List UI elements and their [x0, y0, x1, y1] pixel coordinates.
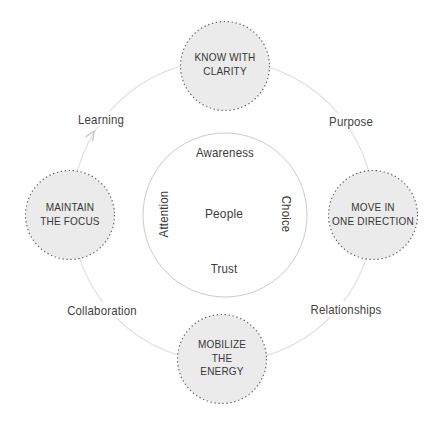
node-label-line: ONE DIRECTION	[332, 214, 414, 228]
node-label-line: THE FOCUS	[40, 214, 99, 228]
node-label-mobilize-the-energy: MOBILIZE THE ENERGY	[198, 338, 246, 379]
node-label-maintain-the-focus: MAINTAIN THE FOCUS	[40, 201, 99, 228]
center-label-attention: Attention	[156, 191, 171, 238]
ring-label-purpose: Purpose	[327, 114, 374, 129]
center-label-choice: Choice	[279, 196, 294, 233]
node-label-line: KNOW WITH	[194, 51, 255, 65]
node-label-line: MOVE IN	[332, 201, 414, 215]
center-label-trust: Trust	[211, 261, 238, 276]
node-label-line: CLARITY	[194, 64, 255, 78]
ring-label-learning: Learning	[76, 112, 125, 127]
people-cycle-diagram: KNOW WITH CLARITY MOVE IN ONE DIRECTION …	[0, 0, 439, 422]
center-label-awareness: Awareness	[196, 145, 254, 160]
node-label-line: ENERGY	[198, 365, 246, 379]
node-label-line: THE	[198, 351, 246, 365]
node-label-line: MAINTAIN	[40, 201, 99, 215]
ring-label-collaboration: Collaboration	[65, 303, 138, 318]
ring-label-relationships: Relationships	[309, 302, 383, 317]
node-label-know-with-clarity: KNOW WITH CLARITY	[194, 51, 255, 78]
node-label-line: MOBILIZE	[198, 338, 246, 352]
center-label-people: People	[205, 206, 243, 221]
node-label-move-in-one-direction: MOVE IN ONE DIRECTION	[332, 201, 414, 228]
